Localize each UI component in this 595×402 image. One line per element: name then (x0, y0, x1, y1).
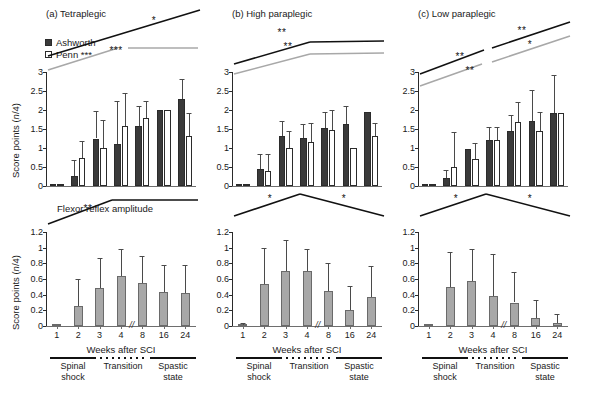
y-tick-mark (415, 295, 418, 296)
phase-dot (304, 357, 306, 359)
legend-item-penn: Penn *** (45, 48, 96, 60)
error-bar (450, 252, 451, 286)
y-tick-mark (415, 326, 418, 327)
x-tick-mark (429, 326, 430, 329)
bar-penn-week-8 (515, 122, 522, 186)
phase-segment-solid-1 (336, 357, 382, 359)
bar-flexor-reflex-amplitude-week-4 (117, 276, 126, 326)
phase-label-0: Spinal shock (246, 361, 271, 383)
error-bar-cap (187, 113, 192, 114)
error-bar-cap (516, 102, 521, 103)
y-tick-mark (415, 91, 418, 92)
error-bar-cap (330, 110, 335, 111)
error-bar-cap (305, 249, 310, 250)
error-bar-cap (344, 106, 349, 107)
error-bar (74, 160, 75, 176)
phase-dot (478, 357, 480, 359)
y-axis (46, 72, 47, 186)
error-bar (82, 141, 83, 158)
x-tick-mark (243, 326, 244, 329)
error-bar (446, 170, 447, 178)
x-tick-mark (350, 326, 351, 329)
error-bar (554, 75, 555, 112)
error-bar-cap (555, 314, 560, 315)
phase-dot (118, 357, 120, 359)
y-tick-mark (415, 310, 418, 311)
y-tick-mark (415, 148, 418, 149)
error-bar-cap (262, 248, 267, 249)
x-tick-mark (472, 326, 473, 329)
bar-ashworth-week-8 (135, 126, 142, 186)
phase-dot (328, 357, 330, 359)
bar-flexor-reflex-amplitude-week-8 (324, 291, 333, 326)
y-tick-mark (229, 326, 232, 327)
error-bar (125, 93, 126, 126)
stars-penn-b-1: ** (284, 42, 293, 52)
bar-ashworth-week-16 (157, 110, 164, 186)
y-tick-mark (415, 110, 418, 111)
error-bar (536, 300, 537, 318)
x-tick-label-16: 16 (159, 330, 169, 340)
y-tick-mark (229, 129, 232, 130)
x-tick-label-1: 1 (240, 330, 245, 340)
error-bar-cap (491, 254, 496, 255)
error-bar (346, 106, 347, 123)
x-tick-label-16: 16 (531, 330, 541, 340)
phase-dot (496, 357, 498, 359)
bar-flexor-reflex-amplitude-week-8 (510, 303, 519, 327)
y-tick-mark (43, 148, 46, 149)
error-bar (518, 102, 519, 121)
x-tick-label-3: 3 (469, 330, 474, 340)
x-tick-mark (286, 326, 287, 329)
axis-break-mark: // (315, 320, 320, 330)
x-tick-label-24: 24 (552, 330, 562, 340)
stars-flexor-left-b-bottom: * (268, 194, 272, 204)
x-tick-label-4: 4 (304, 330, 309, 340)
phase-dot (136, 357, 138, 359)
y-tick-mark (43, 186, 46, 187)
bar-penn-week-3 (472, 159, 479, 186)
y-tick-mark (415, 186, 418, 187)
x-tick-mark (185, 326, 186, 329)
x-tick-label-3: 3 (283, 330, 288, 340)
y-axis (46, 232, 47, 326)
y-tick-mark (229, 148, 232, 149)
phase-segment-dotted (100, 357, 146, 359)
y-tick-mark (415, 72, 418, 73)
x-tick-mark (328, 326, 329, 329)
bar-flexor-reflex-amplitude-week-24 (181, 293, 190, 326)
error-bar (303, 124, 304, 138)
phase-dot (100, 357, 102, 359)
x-axis (46, 186, 196, 187)
y-tick-mark (43, 232, 46, 233)
panel-title-a: (a) Tetraplegic (46, 8, 106, 19)
y-tick-mark (229, 263, 232, 264)
x-tick-mark (514, 326, 515, 329)
error-bar (532, 90, 533, 121)
error-bar (557, 314, 558, 323)
y-tick-mark (415, 129, 418, 130)
error-bar (540, 112, 541, 131)
stars-flexor-right-c-bottom: * (528, 194, 532, 204)
error-bar-cap (161, 265, 166, 266)
error-bar-cap (451, 132, 456, 133)
error-bar (493, 254, 494, 296)
phase-dot (508, 357, 510, 359)
bar-ashworth-week-24 (364, 112, 371, 186)
phase-dot (298, 357, 300, 359)
error-bar-cap (115, 101, 120, 102)
error-bar-cap (144, 101, 149, 102)
phase-label-2: Spastic state (158, 361, 188, 383)
bar-ashworth-week-1 (422, 184, 429, 186)
y-tick-mark (229, 279, 232, 280)
y-tick-mark (43, 129, 46, 130)
error-bar (96, 111, 97, 139)
bar-ashworth-week-4 (486, 140, 493, 186)
y-axis (418, 232, 419, 326)
plot-b-top: 00.511.522.53**** (232, 72, 382, 186)
y-tick-mark (415, 232, 418, 233)
error-bar (182, 79, 183, 99)
bar-penn-week-16 (350, 148, 357, 186)
phase-dot (472, 357, 474, 359)
error-bar-cap (469, 249, 474, 250)
